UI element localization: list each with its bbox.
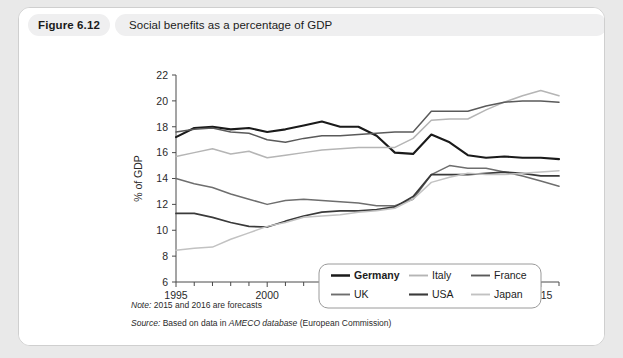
series-line-italy [176, 91, 559, 158]
y-axis-title: % of GDP [132, 155, 144, 202]
note-text: 2015 and 2016 are forecasts [151, 300, 262, 310]
figure-note: Note: 2015 and 2016 are forecasts [131, 300, 262, 310]
source-post: (European Commission) [297, 318, 391, 328]
line-chart: 6810121416182022% of GDP1995200020052010… [19, 42, 604, 346]
chart-legend: GermanyItalyFranceUKUSAJapan [319, 264, 541, 308]
y-axis-tick-label: 22 [156, 69, 168, 81]
figure-title-label: Social benefits as a percentage of GDP [129, 19, 332, 31]
y-axis-tick-label: 14 [156, 172, 168, 184]
y-axis-tick-label: 12 [156, 198, 168, 210]
figure-source: Source: Based on data in AMECO database … [131, 318, 391, 328]
source-lead: Source: [131, 318, 160, 328]
series-line-usa [176, 172, 559, 227]
legend-label-usa: USA [432, 288, 454, 300]
y-axis-tick-label: 18 [156, 121, 168, 133]
figure-card: Figure 6.12 Social benefits as a percent… [18, 7, 605, 346]
source-database-name: AMECO database [229, 318, 298, 328]
legend-label-germany: Germany [354, 269, 400, 281]
legend-label-italy: Italy [432, 269, 452, 281]
legend-label-france: France [494, 269, 527, 281]
y-axis-tick-label: 6 [162, 276, 168, 288]
figure-number-pill: Figure 6.12 [28, 14, 110, 36]
source-pre: Based on data in [160, 318, 229, 328]
note-lead: Note: [131, 300, 151, 310]
y-axis-tick-label: 10 [156, 224, 168, 236]
series-line-france [176, 101, 559, 142]
figure-header: Figure 6.12 Social benefits as a percent… [19, 8, 604, 43]
y-axis-tick-label: 20 [156, 95, 168, 107]
plot-area: 6810121416182022% of GDP1995200020052010… [19, 42, 604, 346]
y-axis-tick-label: 8 [162, 250, 168, 262]
y-axis-tick-label: 16 [156, 146, 168, 158]
figure-number-label: Figure 6.12 [38, 19, 100, 31]
screenshot-root: Figure 6.12 Social benefits as a percent… [0, 0, 623, 358]
legend-label-uk: UK [354, 288, 369, 300]
legend-label-japan: Japan [494, 288, 523, 300]
figure-title-pill: Social benefits as a percentage of GDP [115, 14, 605, 36]
